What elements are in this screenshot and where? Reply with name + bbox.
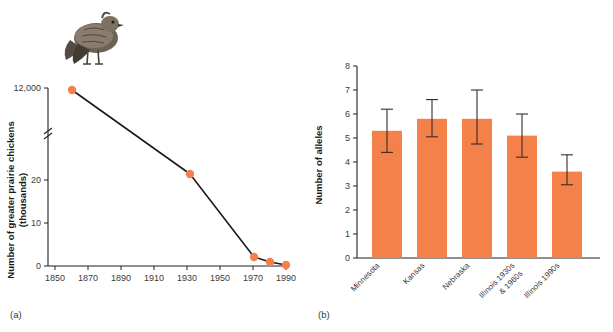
panel-a-xtick-1990: 1990	[276, 273, 296, 283]
panel-a-xtick-1890: 1890	[111, 273, 131, 283]
panel-b-label: (b)	[318, 309, 330, 320]
data-point-1972	[266, 258, 274, 266]
panel-a-xtick-1850: 1850	[45, 273, 65, 283]
panel-b-bar-chart: Number of alleles 0 1 2 3 4 5 6 7 8	[310, 0, 613, 332]
panel-a-line-chart: Number of greater prairie chickens (thou…	[0, 0, 310, 332]
panel-a-ytick-0: 0	[36, 261, 41, 271]
panel-a-xtick-1910: 1910	[144, 273, 164, 283]
panel-a-y-axis-title-line2: (thousands)	[17, 173, 28, 227]
panel-a-x-ticks: 1850 1870 1890 1910 1930 1950 1970 1990	[45, 266, 296, 283]
panel-b-ytick-7: 7	[345, 85, 350, 95]
panel-b-ytick-0: 0	[345, 253, 350, 263]
panel-b-ytick-1: 1	[345, 229, 350, 239]
panel-a-y-axis-title-line1: Number of greater prairie chickens	[5, 121, 16, 278]
panel-a-xtick-1970: 1970	[243, 273, 263, 283]
panel-a-data-line	[72, 90, 286, 265]
data-point-1990	[282, 261, 290, 269]
data-point-1962	[250, 253, 258, 261]
panel-a-label: (a)	[10, 309, 22, 320]
panel-a-ytick-20: 20	[31, 175, 41, 185]
category-label-minnesota: Minnesota	[349, 261, 382, 294]
panel-a-xtick-1870: 1870	[78, 273, 98, 283]
category-label-illinois-1990s: Illinois 1990s	[522, 261, 561, 300]
greater-prairie-chicken-illustration	[65, 13, 124, 64]
panel-b-ytick-4: 4	[345, 157, 350, 167]
panel-a-data-points	[68, 86, 290, 269]
panel-a-ytick-10: 10	[31, 218, 41, 228]
data-point-1933	[186, 170, 194, 178]
panel-a-xtick-1930: 1930	[177, 273, 197, 283]
panel-b-category-labels: Minnesota Kansas Nebraska Illinois 1930s…	[349, 261, 561, 300]
panel-b-y-ticks: 0 1 2 3 4 5 6 7 8	[345, 61, 357, 263]
panel-b-ytick-3: 3	[345, 181, 350, 191]
data-point-1860	[68, 86, 76, 94]
category-label-kansas: Kansas	[401, 261, 426, 286]
category-label-nebraska: Nebraska	[441, 261, 472, 292]
figure-container: Number of greater prairie chickens (thou…	[0, 0, 613, 332]
panel-a-ytick-12000: 12,000	[13, 83, 41, 93]
bar-kansas	[417, 119, 447, 258]
panel-b-ytick-2: 2	[345, 205, 350, 215]
panel-b-ytick-8: 8	[345, 61, 350, 71]
panel-b-ytick-6: 6	[345, 109, 350, 119]
panel-b-y-axis-title: Number of alleles	[313, 125, 324, 204]
panel-a-xtick-1950: 1950	[210, 273, 230, 283]
panel-b-ytick-5: 5	[345, 133, 350, 143]
